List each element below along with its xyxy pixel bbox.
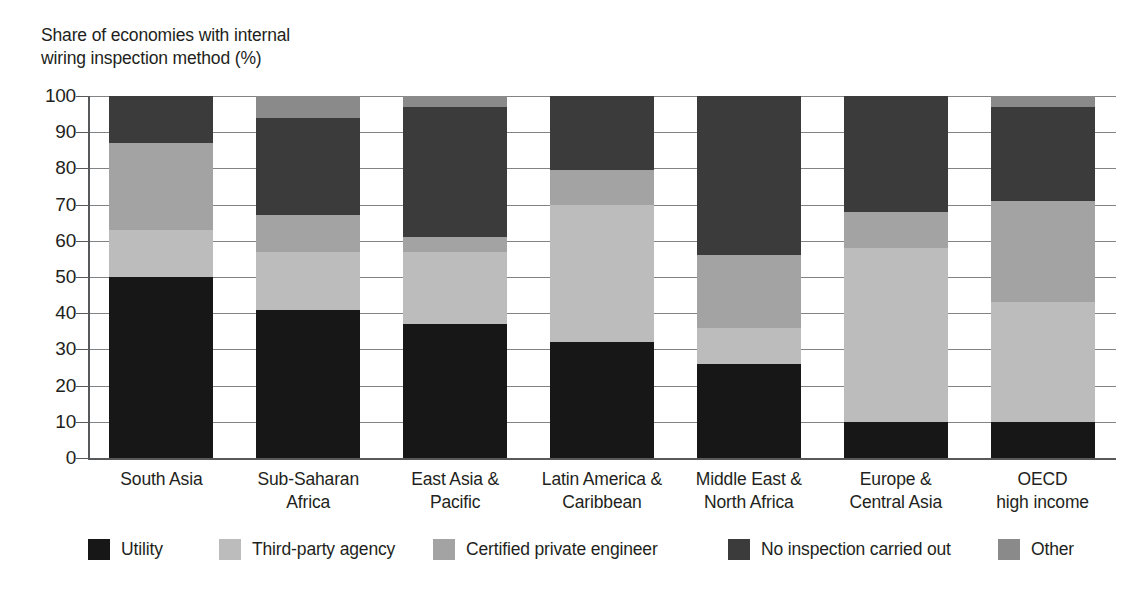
bar-segment	[844, 422, 948, 458]
y-tick-mark	[76, 313, 88, 314]
gridline-0	[88, 458, 1116, 460]
y-tick-mark	[76, 205, 88, 206]
y-tick-mark	[76, 349, 88, 350]
chart-title: Share of economies with internal wiring …	[41, 24, 461, 70]
bar-segment	[991, 302, 1095, 421]
bar-segment	[550, 96, 654, 170]
y-tick-label: 20	[30, 375, 76, 397]
bar-3	[403, 96, 507, 458]
x-tick-label: Sub-Saharan Africa	[235, 468, 382, 514]
legend-label: Third-party agency	[252, 539, 395, 560]
legend-swatch-icon	[433, 539, 455, 560]
bar-segment	[256, 96, 360, 118]
y-tick-label: 90	[30, 121, 76, 143]
y-tick-mark	[76, 168, 88, 169]
legend-swatch-icon	[728, 539, 750, 560]
y-tick-mark	[76, 241, 88, 242]
bar-segment	[844, 96, 948, 212]
legend-label: Utility	[121, 539, 163, 560]
bar-segment	[697, 328, 801, 364]
bar-segment	[403, 96, 507, 107]
bar-segment	[844, 248, 948, 422]
bar-segment	[256, 252, 360, 310]
legend-swatch-icon	[88, 539, 110, 560]
bar-segment	[991, 107, 1095, 201]
bar-segment	[550, 170, 654, 204]
bar-segment	[109, 96, 213, 143]
x-tick-label: East Asia & Pacific	[382, 468, 529, 514]
y-tick-label: 50	[30, 266, 76, 288]
bar-segment	[991, 422, 1095, 458]
bar-segment	[109, 277, 213, 458]
bar-segment	[697, 364, 801, 458]
y-tick-mark	[76, 422, 88, 423]
bar-segment	[403, 324, 507, 458]
bar-segment	[403, 107, 507, 237]
x-tick-label: South Asia	[88, 468, 235, 491]
y-tick-label: 40	[30, 302, 76, 324]
bar-segment	[256, 310, 360, 458]
bar-5	[697, 96, 801, 458]
bar-7	[991, 96, 1095, 458]
y-tick-label: 70	[30, 194, 76, 216]
bar-segment	[991, 201, 1095, 302]
bar-6	[844, 96, 948, 458]
legend-swatch-icon	[998, 539, 1020, 560]
legend-label: No inspection carried out	[761, 539, 951, 560]
bar-segment	[109, 143, 213, 230]
bar-segment	[550, 342, 654, 458]
y-tick-mark	[76, 386, 88, 387]
bar-segment	[697, 255, 801, 327]
x-axis-tick-labels: South AsiaSub-Saharan AfricaEast Asia & …	[88, 468, 1116, 524]
x-tick-label: Middle East & North Africa	[675, 468, 822, 514]
y-tick-label: 100	[30, 85, 76, 107]
bar-2	[256, 96, 360, 458]
legend-item[interactable]: Utility	[88, 534, 163, 564]
bar-1	[109, 96, 213, 458]
y-tick-label: 60	[30, 230, 76, 252]
chart-legend: UtilityThird-party agencyCertified priva…	[88, 534, 1118, 568]
bar-segment	[991, 96, 1095, 107]
x-tick-label: OECD high income	[969, 468, 1116, 514]
x-tick-label: Europe & Central Asia	[822, 468, 969, 514]
bar-segment	[550, 205, 654, 343]
plot-area	[88, 96, 1116, 458]
y-axis-tick-labels: 0102030405060708090100	[30, 96, 76, 458]
legend-label: Certified private engineer	[466, 539, 658, 560]
legend-item[interactable]: Certified private engineer	[433, 534, 658, 564]
legend-label: Other	[1031, 539, 1074, 560]
bar-segment	[256, 118, 360, 216]
bar-segment	[403, 252, 507, 324]
y-tick-label: 30	[30, 338, 76, 360]
y-tick-mark	[76, 277, 88, 278]
chart-figure: Share of economies with internal wiring …	[0, 0, 1125, 598]
bar-4	[550, 96, 654, 458]
y-tick-label: 10	[30, 411, 76, 433]
y-tick-label: 80	[30, 157, 76, 179]
bar-segment	[403, 237, 507, 251]
bar-segment	[256, 215, 360, 251]
legend-item[interactable]: Other	[998, 534, 1074, 564]
x-tick-label: Latin America & Caribbean	[529, 468, 676, 514]
y-tick-mark	[76, 132, 88, 133]
legend-item[interactable]: No inspection carried out	[728, 534, 951, 564]
legend-item[interactable]: Third-party agency	[219, 534, 395, 564]
bar-segment	[697, 96, 801, 255]
y-tick-mark	[76, 458, 88, 459]
y-tick-mark	[76, 96, 88, 97]
bar-segment	[844, 212, 948, 248]
bar-segment	[109, 230, 213, 277]
y-tick-label: 0	[30, 447, 76, 469]
legend-swatch-icon	[219, 539, 241, 560]
